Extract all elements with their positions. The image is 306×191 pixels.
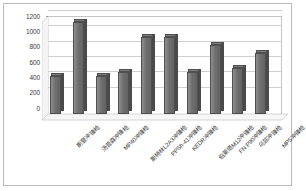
bar-front-face — [73, 22, 84, 114]
bar-side-face — [221, 42, 224, 111]
bar-front-face — [187, 72, 198, 114]
bar-side-face — [61, 73, 64, 111]
bar-top-face — [211, 42, 222, 45]
bar-side-face — [266, 50, 269, 111]
bar — [232, 68, 243, 114]
bar-front-face — [232, 68, 243, 114]
bar-side-face — [243, 65, 246, 111]
bar-side-face — [107, 73, 110, 111]
bar-front-face — [164, 37, 175, 114]
bar-top-face — [97, 73, 108, 76]
bar-side-face — [175, 34, 178, 111]
bar-side-face — [198, 69, 201, 111]
gridline — [48, 10, 282, 11]
x-tick-label: MP5冲锋枪 — [281, 124, 297, 150]
chart-frame: 020040060080010001200 斯登冲锋枪汤普森冲锋枪MP40冲锋枪… — [3, 3, 292, 186]
bar-top-face — [142, 34, 153, 37]
y-tick-label: 1000 — [26, 28, 40, 35]
bar-front-face — [255, 53, 266, 114]
bar — [118, 72, 129, 114]
bar — [164, 37, 175, 114]
y-tick-label: 0 — [36, 105, 40, 112]
bar-side-face — [152, 34, 155, 111]
bar-front-face — [141, 37, 152, 114]
y-axis: 020040060080010001200 — [10, 12, 42, 116]
bar-front-face — [96, 76, 107, 114]
x-axis: 斯登冲锋枪汤普森冲锋枪MP40冲锋枪斯特林L2A3冲锋枪PPSh-41冲锋枪KE… — [4, 122, 293, 184]
bar — [73, 22, 84, 114]
bar-top-face — [188, 69, 199, 72]
bar — [187, 72, 198, 114]
bar-side-face — [84, 19, 87, 111]
bars-layer — [42, 16, 288, 120]
bar — [50, 76, 61, 114]
bar — [210, 45, 221, 114]
y-tick-label: 800 — [29, 43, 40, 50]
x-tick-label: 斯登冲锋枪 — [76, 124, 102, 150]
bar-front-face — [118, 72, 129, 114]
y-tick-label: 200 — [29, 89, 40, 96]
bar-front-face — [50, 76, 61, 114]
bar-front-face — [210, 45, 221, 114]
bar-top-face — [165, 34, 176, 37]
bar-top-face — [51, 73, 62, 76]
y-tick-label: 1200 — [26, 13, 40, 20]
y-tick-label: 400 — [29, 74, 40, 81]
y-tick-label: 600 — [29, 59, 40, 66]
bar — [96, 76, 107, 114]
bar-side-face — [129, 69, 132, 111]
bar — [141, 37, 152, 114]
bar-top-face — [256, 50, 267, 53]
bar-top-face — [119, 69, 130, 72]
bar-top-face — [233, 65, 244, 68]
bar — [255, 53, 266, 114]
bar-top-face — [74, 19, 85, 22]
